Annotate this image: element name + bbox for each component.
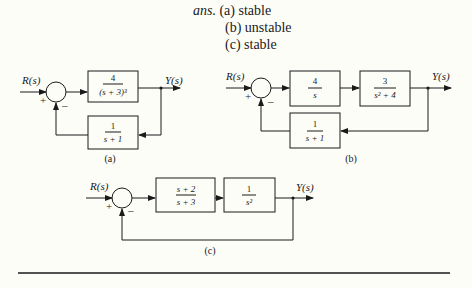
tf-a-fwd-den: (s + 3)³ bbox=[99, 87, 127, 97]
tf-a-fwd-num: 4 bbox=[111, 73, 116, 83]
minus-sign-c: – bbox=[127, 204, 134, 216]
tf-b-fb-den: s + 1 bbox=[306, 133, 325, 143]
tf-c-fwd1-num: s + 2 bbox=[177, 184, 196, 194]
minus-sign-a: – bbox=[61, 99, 68, 111]
block-diagrams: R(s) + – 4 (s + 3)³ 1 s + 1 Y(s) (a) R(s… bbox=[0, 0, 472, 288]
takeoff-node-c bbox=[291, 196, 294, 199]
feedback-return bbox=[122, 198, 293, 240]
tf-c-fwd2-num: 1 bbox=[247, 184, 252, 194]
feedback-return bbox=[56, 103, 88, 135]
input-label-c: R(s) bbox=[89, 180, 109, 193]
diagram-b bbox=[226, 71, 451, 148]
diagram-c bbox=[86, 178, 313, 240]
tf-b-fb-num: 1 bbox=[313, 119, 318, 129]
output-label-b: Y(s) bbox=[432, 70, 450, 83]
tf-b-fwd1-num: 4 bbox=[313, 76, 318, 86]
tf-b-fwd1-den: s bbox=[313, 90, 317, 100]
plus-sign-c: + bbox=[106, 200, 112, 212]
tf-a-fb-num: 1 bbox=[111, 121, 116, 131]
caption-c: (c) bbox=[204, 245, 215, 257]
output-label-a: Y(s) bbox=[165, 74, 183, 87]
caption-a: (a) bbox=[104, 153, 115, 165]
output-label-c: Y(s) bbox=[296, 181, 314, 194]
tf-c-fwd2-den: s² bbox=[246, 197, 253, 207]
tf-b-fwd2-num: 3 bbox=[383, 76, 388, 86]
caption-b: (b) bbox=[345, 153, 357, 165]
diagram-a bbox=[20, 71, 180, 149]
feedback-return bbox=[261, 99, 290, 131]
tf-b-fwd2-den: s² + 4 bbox=[374, 90, 396, 100]
takeoff-node-b bbox=[426, 86, 429, 89]
takeoff-node-a bbox=[159, 86, 162, 89]
input-label-a: R(s) bbox=[21, 74, 41, 87]
plus-sign-b: + bbox=[245, 90, 251, 102]
minus-sign-b: – bbox=[267, 95, 274, 107]
tf-a-fb-den: s + 1 bbox=[104, 134, 123, 144]
tf-c-fwd1-den: s + 3 bbox=[177, 197, 196, 207]
plus-sign-a: + bbox=[40, 94, 46, 106]
input-label-b: R(s) bbox=[225, 70, 245, 83]
